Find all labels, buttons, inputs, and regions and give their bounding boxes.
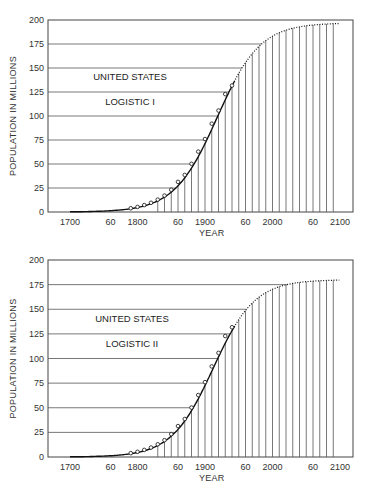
y-tick-label: 50 (34, 159, 44, 169)
observed-point (176, 180, 180, 184)
y-tick-label: 200 (29, 15, 44, 25)
y-tick-label: 100 (29, 354, 44, 364)
y-tick-label: 50 (34, 403, 44, 413)
figure: 0255075100125150175200170060180060190060… (0, 0, 365, 496)
y-tick-label: 200 (29, 255, 44, 265)
observed-point (136, 205, 140, 209)
observed-point (156, 442, 160, 446)
observed-point (183, 417, 187, 421)
observed-point (176, 424, 180, 428)
chart-subtitle: LOGISTIC II (106, 338, 158, 349)
observed-point (196, 393, 200, 397)
observed-point (210, 122, 214, 126)
observed-point (230, 84, 234, 88)
x-tick-label: 60 (240, 217, 250, 227)
observed-point (142, 448, 146, 452)
x-axis-label: YEAR (199, 228, 225, 238)
y-tick-label: 75 (34, 135, 44, 145)
x-tick-label: 60 (105, 217, 115, 227)
x-tick-label: 60 (173, 217, 183, 227)
y-tick-label: 175 (29, 39, 44, 49)
x-tick-label: 2000 (262, 217, 282, 227)
x-tick-label: 2000 (262, 462, 282, 472)
x-tick-label: 60 (105, 462, 115, 472)
projected-curve (235, 280, 339, 325)
observed-point (203, 380, 207, 384)
observed-point (230, 325, 234, 329)
observed-point (169, 432, 173, 436)
x-tick-label: 1700 (60, 462, 80, 472)
x-tick-label: 1900 (195, 462, 215, 472)
observed-point (196, 150, 200, 154)
x-tick-label: 1800 (127, 217, 147, 227)
observed-point (217, 109, 221, 113)
y-tick-label: 0 (39, 207, 44, 217)
x-tick-label: 1700 (60, 217, 80, 227)
y-axis-label: POPULATION IN MILLIONS (8, 299, 18, 419)
observed-point (142, 203, 146, 207)
x-tick-label: 60 (308, 462, 318, 472)
observed-point (217, 351, 221, 355)
observed-point (169, 188, 173, 192)
observed-point (129, 206, 133, 210)
observed-point (136, 450, 140, 454)
y-tick-label: 0 (39, 452, 44, 462)
y-tick-label: 150 (29, 63, 44, 73)
y-tick-label: 100 (29, 111, 44, 121)
y-tick-label: 25 (34, 183, 44, 193)
x-tick-label: 2100 (330, 217, 350, 227)
chart-1: 0255075100125150175200170060180060190060… (8, 15, 353, 238)
observed-point (183, 173, 187, 177)
y-axis-label: POPULATION IN MILLIONS (8, 56, 18, 176)
observed-point (156, 198, 160, 202)
x-tick-label: 2100 (330, 462, 350, 472)
observed-point (223, 92, 227, 96)
chart-subtitle: LOGISTIC I (105, 96, 155, 107)
projected-curve (235, 24, 339, 80)
x-tick-label: 60 (240, 462, 250, 472)
observed-point (210, 365, 214, 369)
y-tick-label: 25 (34, 427, 44, 437)
observed-point (149, 446, 153, 450)
x-tick-label: 60 (173, 462, 183, 472)
y-tick-label: 150 (29, 304, 44, 314)
observed-point (190, 406, 194, 410)
y-tick-label: 175 (29, 280, 44, 290)
y-tick-label: 125 (29, 329, 44, 339)
observed-point (149, 201, 153, 205)
chart-title: UNITED STATES (95, 313, 169, 324)
x-tick-label: 1900 (195, 217, 215, 227)
x-tick-label: 60 (308, 217, 318, 227)
observed-point (203, 137, 207, 141)
chart-2: 0255075100125150175200170060180060190060… (8, 255, 353, 483)
y-tick-label: 75 (34, 378, 44, 388)
observed-point (163, 438, 167, 442)
y-tick-label: 125 (29, 87, 44, 97)
x-axis-label: YEAR (199, 473, 225, 483)
chart-title: UNITED STATES (93, 71, 167, 82)
observed-point (163, 194, 167, 198)
observed-point (129, 451, 133, 455)
observed-point (223, 334, 227, 338)
observed-point (190, 162, 194, 166)
x-tick-label: 1800 (127, 462, 147, 472)
